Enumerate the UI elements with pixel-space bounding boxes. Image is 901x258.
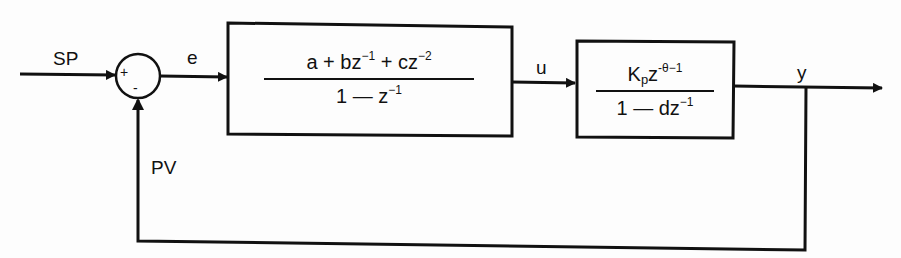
process-fraction-bar	[596, 90, 714, 92]
output-arrow	[734, 86, 882, 88]
pv-label: PV	[151, 158, 176, 177]
diagram-lines	[0, 0, 901, 258]
sp-arrow	[20, 74, 115, 75]
process-transfer-function: Kpz-θ−1 1 — dz−1	[596, 64, 714, 118]
process-numerator: Kpz-θ−1	[596, 64, 714, 84]
minus-sign: -	[133, 81, 138, 95]
error-label: e	[187, 48, 198, 67]
control-label: u	[536, 58, 547, 77]
process-denominator: 1 — dz−1	[596, 98, 714, 118]
controller-numerator: a + bz−1 + cz−2	[264, 52, 474, 72]
controller-denominator: 1 — z−1	[264, 86, 474, 106]
output-label: y	[797, 63, 807, 82]
plus-sign: +	[120, 65, 128, 79]
controller-fraction-bar	[264, 78, 474, 80]
sp-label: SP	[53, 49, 78, 68]
error-arrow	[160, 76, 227, 77]
block-diagram: SP + - e u y PV a + bz−1 + cz−2 1 — z−1 …	[0, 0, 901, 258]
controller-transfer-function: a + bz−1 + cz−2 1 — z−1	[264, 52, 474, 106]
control-arrow	[512, 82, 575, 83]
feedback-arrowhead	[132, 98, 144, 110]
